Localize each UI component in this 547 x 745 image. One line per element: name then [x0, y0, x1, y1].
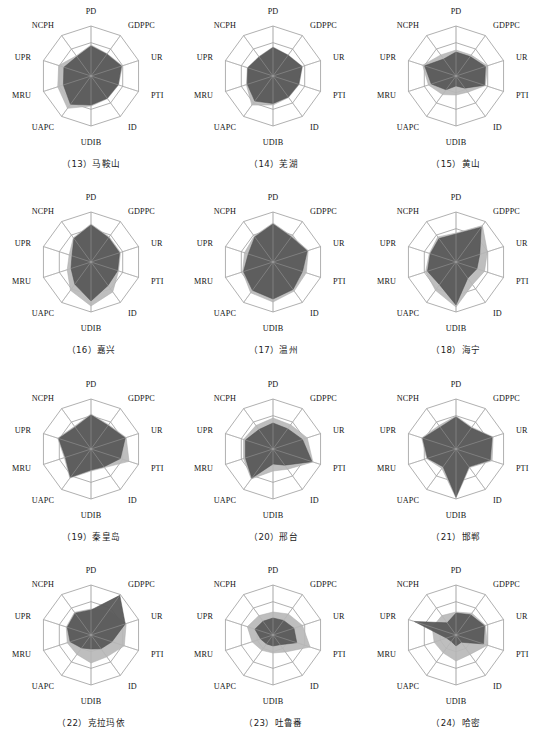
axis-label-ur: UR — [151, 425, 163, 434]
axis-label-mru: MRU — [377, 464, 396, 473]
axis-label-pd: PD — [86, 7, 97, 16]
axis-label-pti: PTI — [333, 278, 346, 287]
axis-label-uapc: UAPC — [397, 123, 420, 132]
axis-label-gdppc: GDPPC — [128, 580, 155, 589]
axis-label-ncph: NCPH — [397, 580, 419, 589]
axis-label-pti: PTI — [333, 464, 346, 473]
axis-label-id: ID — [128, 309, 137, 318]
axis-label-mru: MRU — [12, 278, 31, 287]
axis-label-uapc: UAPC — [32, 309, 55, 318]
axis-label-ur: UR — [516, 425, 528, 434]
axis-label-ur: UR — [516, 611, 528, 620]
axis-label-udib: UDIB — [263, 138, 284, 147]
axis-label-id: ID — [128, 495, 137, 504]
axis-label-upr: UPR — [197, 611, 214, 620]
axis-label-mru: MRU — [377, 650, 396, 659]
axis-label-ur: UR — [333, 239, 345, 248]
axis-label-udib: UDIB — [81, 511, 102, 520]
axis-label-id: ID — [493, 309, 502, 318]
chart-caption-20: （20）邢台 — [249, 530, 298, 542]
radar-chart-16: PDGDPPCURPTIIDUDIBUAPCMRUUPRNCPH — [5, 192, 177, 342]
axis-label-id: ID — [311, 123, 320, 132]
axis-label-ur: UR — [516, 239, 528, 248]
radar-chart-21: PDGDPPCURPTIIDUDIBUAPCMRUUPRNCPH — [370, 379, 542, 529]
axis-label-mru: MRU — [377, 278, 396, 287]
axis-label-mru: MRU — [195, 650, 214, 659]
axis-label-mru: MRU — [12, 650, 31, 659]
axis-label-upr: UPR — [380, 611, 397, 620]
chart-caption-19: （19）秦皇岛 — [62, 530, 120, 542]
chart-caption-22: （22）克拉玛依 — [57, 716, 124, 728]
axis-label-udib: UDIB — [263, 324, 284, 333]
axis-label-mru: MRU — [377, 91, 396, 100]
axis-label-gdppc: GDPPC — [493, 394, 520, 403]
axis-label-pti: PTI — [516, 464, 529, 473]
axis-label-upr: UPR — [15, 425, 32, 434]
axis-label-pd: PD — [268, 7, 279, 16]
radar-chart-cell-17: PDGDPPCURPTIIDUDIBUAPCMRUUPRNCPH（17）温州 — [182, 186, 364, 372]
axis-label-pti: PTI — [151, 278, 164, 287]
axis-label-gdppc: GDPPC — [128, 394, 155, 403]
axis-label-uapc: UAPC — [214, 309, 237, 318]
axis-label-id: ID — [493, 123, 502, 132]
axis-label-ncph: NCPH — [397, 21, 419, 30]
axis-label-ncph: NCPH — [32, 207, 54, 216]
axis-label-upr: UPR — [380, 239, 397, 248]
axis-label-upr: UPR — [197, 53, 214, 62]
axis-label-udib: UDIB — [446, 138, 467, 147]
axis-label-gdppc: GDPPC — [128, 207, 155, 216]
axis-label-uapc: UAPC — [32, 123, 55, 132]
axis-label-id: ID — [311, 682, 320, 691]
axis-label-udib: UDIB — [446, 511, 467, 520]
radar-chart-17: PDGDPPCURPTIIDUDIBUAPCMRUUPRNCPH — [187, 192, 359, 342]
axis-label-uapc: UAPC — [214, 682, 237, 691]
radar-chart-14: PDGDPPCURPTIIDUDIBUAPCMRUUPRNCPH — [187, 6, 359, 156]
radar-series-group — [67, 224, 120, 306]
axis-label-upr: UPR — [15, 53, 32, 62]
radar-chart-20: PDGDPPCURPTIIDUDIBUAPCMRUUPRNCPH — [187, 379, 359, 529]
axis-label-gdppc: GDPPC — [493, 21, 520, 30]
axis-label-udib: UDIB — [446, 324, 467, 333]
radar-area-dark — [424, 52, 485, 90]
axis-label-pd: PD — [86, 193, 97, 202]
axis-label-id: ID — [128, 123, 137, 132]
axis-label-pd: PD — [86, 566, 97, 575]
axis-label-uapc: UAPC — [397, 682, 420, 691]
axis-label-ncph: NCPH — [214, 207, 236, 216]
radar-chart-18: PDGDPPCURPTIIDUDIBUAPCMRUUPRNCPH — [370, 192, 542, 342]
radar-series-group — [244, 418, 313, 479]
radar-chart-24: PDGDPPCURPTIIDUDIBUAPCMRUUPRNCPH — [370, 565, 542, 715]
axis-label-pti: PTI — [516, 650, 529, 659]
axis-label-ncph: NCPH — [32, 21, 54, 30]
axis-label-upr: UPR — [197, 425, 214, 434]
axis-label-mru: MRU — [12, 91, 31, 100]
axis-label-id: ID — [493, 682, 502, 691]
chart-caption-16: （16）嘉兴 — [67, 343, 116, 355]
axis-label-pti: PTI — [151, 91, 164, 100]
axis-label-ur: UR — [151, 53, 163, 62]
radar-chart-19: PDGDPPCURPTIIDUDIBUAPCMRUUPRNCPH — [5, 379, 177, 529]
axis-label-udib: UDIB — [81, 324, 102, 333]
axis-label-udib: UDIB — [446, 697, 467, 706]
axis-label-udib: UDIB — [81, 138, 102, 147]
radar-chart-cell-22: PDGDPPCURPTIIDUDIBUAPCMRUUPRNCPH（22）克拉玛依 — [0, 559, 182, 745]
axis-label-upr: UPR — [15, 239, 32, 248]
axis-label-uapc: UAPC — [397, 495, 420, 504]
radar-series-group — [248, 612, 311, 653]
axis-label-ncph: NCPH — [214, 21, 236, 30]
axis-label-uapc: UAPC — [214, 123, 237, 132]
axis-label-upr: UPR — [15, 611, 32, 620]
axis-label-pd: PD — [450, 380, 461, 389]
axis-label-ncph: NCPH — [32, 580, 54, 589]
axis-label-pd: PD — [86, 380, 97, 389]
radar-chart-cell-16: PDGDPPCURPTIIDUDIBUAPCMRUUPRNCPH（16）嘉兴 — [0, 186, 182, 372]
chart-caption-14: （14）芜湖 — [249, 157, 298, 169]
radar-chart-cell-20: PDGDPPCURPTIIDUDIBUAPCMRUUPRNCPH（20）邢台 — [182, 373, 364, 559]
axis-label-id: ID — [311, 309, 320, 318]
axis-label-ur: UR — [516, 53, 528, 62]
radar-chart-cell-21: PDGDPPCURPTIIDUDIBUAPCMRUUPRNCPH（21）邯郸 — [365, 373, 547, 559]
axis-label-pd: PD — [268, 380, 279, 389]
chart-caption-24: （24）哈密 — [431, 716, 480, 728]
axis-label-pti: PTI — [333, 91, 346, 100]
axis-label-udib: UDIB — [81, 697, 102, 706]
